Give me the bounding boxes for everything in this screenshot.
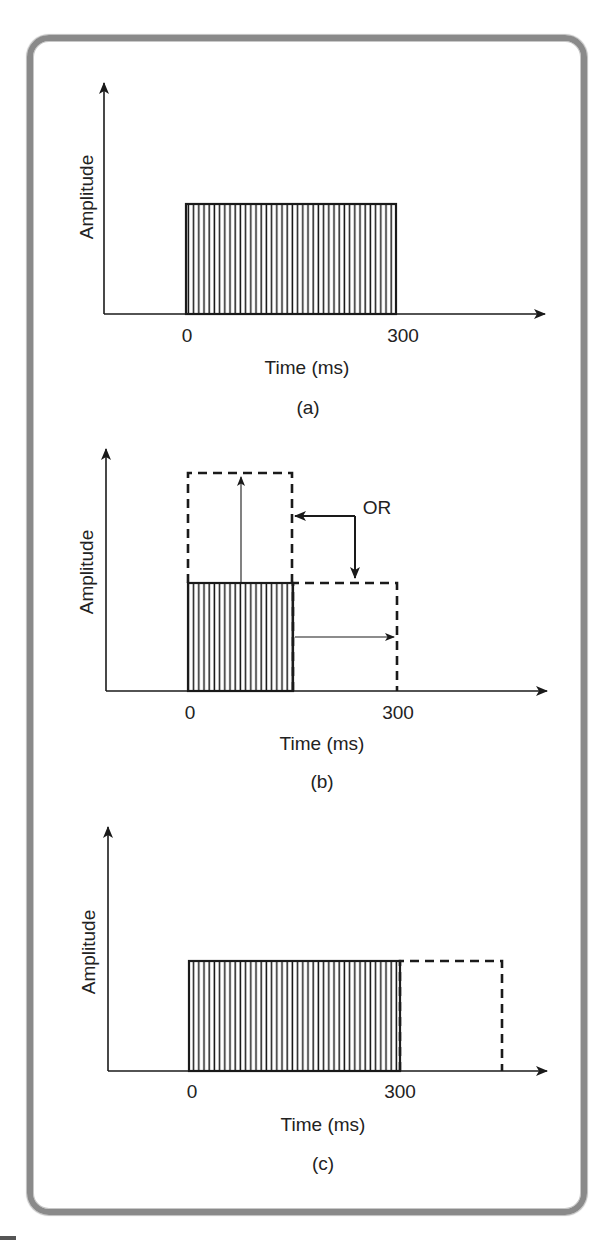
x-axis-label: Time (ms) bbox=[281, 1114, 366, 1135]
y-axis-label: Amplitude bbox=[78, 910, 99, 995]
or-label: OR bbox=[363, 497, 392, 518]
stimulus-bar bbox=[189, 961, 400, 1071]
x-axis-label: Time (ms) bbox=[280, 733, 365, 754]
panel-a: Amplitude0300Time (ms)(a) bbox=[76, 83, 545, 418]
x-tick-label: 300 bbox=[382, 702, 414, 723]
panel-caption: (b) bbox=[310, 771, 333, 792]
amplitude-doubled-box bbox=[188, 473, 292, 583]
stimulus-bar bbox=[186, 204, 396, 314]
x-tick-label: 0 bbox=[182, 325, 193, 346]
x-tick-label: 0 bbox=[187, 1081, 198, 1102]
stimulus-bar bbox=[188, 583, 293, 691]
x-tick-label: 300 bbox=[384, 1081, 416, 1102]
panel-b: ORAmplitude0300Time (ms)(b) bbox=[76, 449, 547, 792]
panel-caption: (a) bbox=[296, 397, 319, 418]
panel-caption: (c) bbox=[312, 1153, 334, 1174]
x-axis-label: Time (ms) bbox=[265, 357, 350, 378]
plots-canvas: Amplitude0300Time (ms)(a)ORAmplitude0300… bbox=[0, 0, 613, 1240]
corner-mark bbox=[0, 1236, 16, 1240]
x-tick-label: 300 bbox=[387, 325, 419, 346]
y-axis-label: Amplitude bbox=[76, 155, 97, 240]
extended-duration-box bbox=[400, 961, 502, 1071]
y-axis-label: Amplitude bbox=[76, 530, 97, 615]
panel-c: Amplitude0300Time (ms)(c) bbox=[78, 827, 547, 1174]
figure: Amplitude0300Time (ms)(a)ORAmplitude0300… bbox=[0, 0, 613, 1240]
x-tick-label: 0 bbox=[185, 702, 196, 723]
